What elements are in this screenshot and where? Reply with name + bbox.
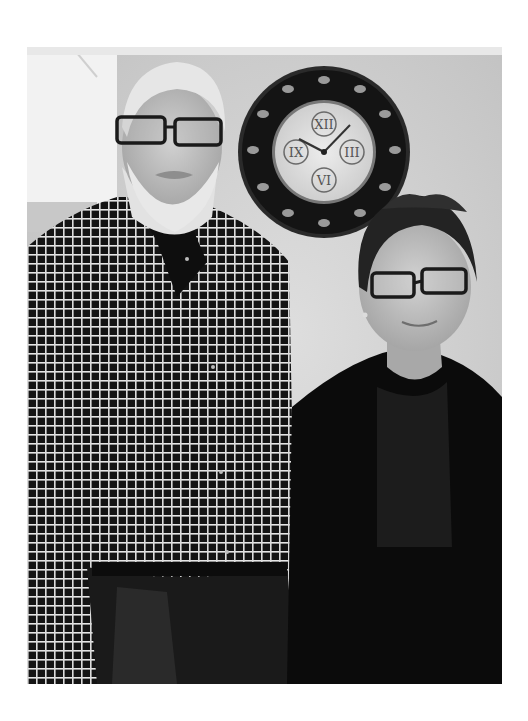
- clock-numeral-12: XII: [314, 117, 334, 132]
- clock-numeral-9: IX: [289, 145, 304, 160]
- photograph: XII III VI IX: [27, 47, 502, 684]
- clock-numeral-6: VI: [316, 173, 332, 188]
- clock-numeral-3: III: [344, 145, 359, 160]
- window-area: [27, 47, 117, 207]
